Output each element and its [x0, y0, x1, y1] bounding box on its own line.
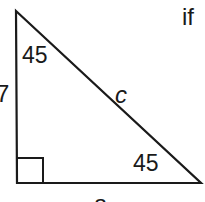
bottom-right-angle-label: 45 — [133, 152, 159, 175]
bottom-leg-label: a — [94, 192, 107, 202]
caption-fragment: if — [182, 5, 194, 29]
top-angle-label: 45 — [22, 44, 48, 67]
right-angle-marker — [17, 158, 43, 183]
triangle-figure — [0, 0, 205, 202]
left-leg-label: 7 — [0, 82, 9, 106]
hypotenuse-label: c — [115, 83, 127, 107]
